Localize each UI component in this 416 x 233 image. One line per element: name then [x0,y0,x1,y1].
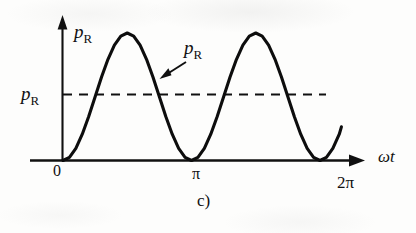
x-axis-arrowhead [349,155,365,167]
y-axis-label-symbol: p [74,21,84,42]
average-power-symbol: p [21,83,31,104]
origin-label: 0 [53,163,61,179]
y-axis-label-subscript: R [84,31,93,46]
y-axis-label: pR [74,22,92,46]
figure-caption: c) [197,192,210,209]
curve-callout-label: pR [184,38,202,62]
curve-callout-subscript: R [194,47,203,62]
y-axis [58,15,68,161]
x-tick-label-two-pi: 2π [337,174,354,191]
y-axis-arrowhead [58,15,68,30]
x-tick-label-pi: π [192,166,200,182]
figure-container: pR pR pR 0 π 2π ωt c) [0,0,416,233]
power-curve [63,33,341,161]
average-power-subscript: R [31,93,40,108]
curve-callout-symbol: p [184,37,194,58]
callout-arrow [160,62,187,79]
x-axis-label: ωt [378,148,395,165]
average-power-label: pR [21,84,39,108]
